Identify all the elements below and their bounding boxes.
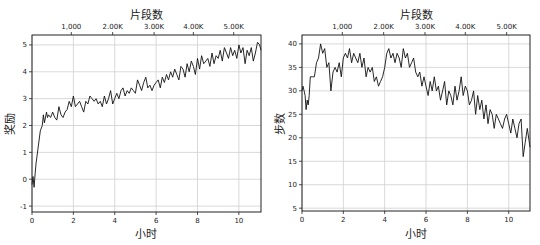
- steps-top-tick-label: 3.00K: [415, 23, 436, 31]
- steps-y-tick-label: 15: [288, 158, 297, 166]
- steps-x-tick-label: 4: [382, 216, 387, 224]
- reward-x-axis-label: 小时: [135, 228, 157, 241]
- steps-top-tick-label: 2.00K: [374, 23, 395, 31]
- steps-x-axis-label: 小时: [405, 228, 427, 241]
- reward-top-tick-label: 3.00K: [144, 23, 165, 31]
- reward-series-line: [32, 42, 261, 187]
- steps-x-tick-label: 0: [300, 216, 304, 224]
- reward-x-tick-label: 6: [154, 217, 159, 225]
- reward-x-tick-label: 8: [195, 217, 199, 225]
- steps-x-tick-label: 2: [341, 216, 345, 224]
- steps-top-axis-label: 片段数: [400, 8, 433, 22]
- reward-x-tick-label: 10: [234, 217, 243, 225]
- steps-series-line: [302, 44, 530, 157]
- reward-top-tick-label: 1,000: [61, 23, 81, 31]
- reward-top-tick-label: 2.00K: [103, 23, 124, 31]
- steps-y-tick-label: 5: [293, 205, 297, 213]
- steps-x-tick-label: 6: [424, 216, 429, 224]
- reward-top-tick-label: 5.00K: [224, 23, 245, 31]
- reward-y-tick-label: 0: [23, 176, 27, 184]
- steps-chart: 51015202530354002468101,0002.00K3.00K4.0…: [274, 8, 530, 241]
- reward-x-tick-label: 4: [113, 217, 118, 225]
- reward-chart-ticks: -101234502468101,0002.00K3.00K4.00K5.00K: [20, 23, 244, 225]
- steps-top-tick-label: 1,000: [332, 23, 352, 31]
- reward-x-tick-label: 2: [71, 217, 75, 225]
- reward-y-tick-label: 2: [23, 122, 27, 130]
- steps-y-tick-label: 20: [288, 134, 297, 142]
- reward-y-tick-label: 5: [23, 41, 27, 49]
- steps-y-tick-label: 30: [288, 87, 297, 95]
- steps-y-axis-label: 步数: [274, 113, 287, 135]
- reward-chart-frame: [32, 35, 261, 212]
- steps-x-tick-label: 10: [504, 216, 513, 224]
- reward-y-tick-label: 3: [23, 95, 27, 103]
- steps-y-tick-label: 35: [288, 64, 297, 72]
- steps-x-tick-label: 8: [465, 216, 469, 224]
- steps-y-tick-label: 25: [288, 111, 297, 119]
- steps-y-tick-label: 40: [288, 40, 297, 48]
- steps-top-tick-label: 5.00K: [497, 23, 518, 31]
- steps-top-tick-label: 4.00K: [455, 23, 476, 31]
- reward-chart-grid: [32, 35, 261, 212]
- steps-y-tick-label: 10: [288, 181, 297, 189]
- reward-x-tick-label: 0: [30, 217, 34, 225]
- steps-chart-grid: [302, 35, 530, 211]
- reward-y-tick-label: 4: [23, 68, 28, 76]
- reward-y-tick-label: 1: [23, 149, 27, 157]
- reward-top-tick-label: 4.00K: [183, 23, 204, 31]
- reward-chart: -101234502468101,0002.00K3.00K4.00K5.00K…: [3, 8, 261, 241]
- reward-top-axis-label: 片段数: [130, 8, 163, 22]
- chart-root: -101234502468101,0002.00K3.00K4.00K5.00K…: [0, 0, 540, 245]
- reward-y-axis-label: 奖励: [3, 113, 17, 135]
- reward-y-tick-label: -1: [20, 203, 27, 211]
